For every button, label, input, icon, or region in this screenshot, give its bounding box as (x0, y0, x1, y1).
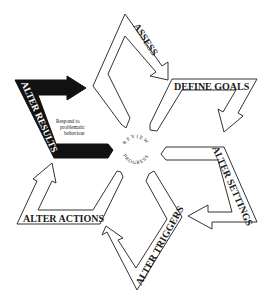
center-review-progress: REVIEW PROGRESS (122, 134, 150, 165)
alter-actions-label: ALTER ACTIONS (23, 213, 104, 224)
cycle-diagram: ASSESS DEFINE GOALS ALTER SETTINGS ALTER… (0, 0, 271, 307)
step-alter-actions: ALTER ACTIONS (17, 163, 123, 224)
annotation-line-3: behaviour (64, 130, 85, 136)
define-goals-label: DEFINE GOALS (174, 81, 250, 92)
center-top-label: REVIEW (122, 134, 150, 145)
center-bottom-label: PROGRESS (122, 153, 150, 165)
annotation-respond: Respond to problematic behaviour (56, 118, 85, 136)
alter-triggers-label: ALTER TRIGGERS (133, 204, 186, 287)
step-define-goals: DEFINE GOALS (150, 79, 257, 132)
